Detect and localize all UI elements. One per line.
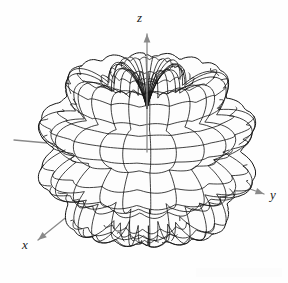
axis-label-x: x <box>22 238 28 251</box>
scan-artifact <box>196 268 282 277</box>
wireframe-surface-plot <box>0 0 288 283</box>
axis-label-y: y <box>270 188 276 201</box>
axis-arrowhead-z <box>144 34 151 43</box>
radiation-pattern-figure: z y x <box>0 0 288 283</box>
axis-arrowhead-y <box>255 188 264 194</box>
axis-label-z: z <box>137 11 142 24</box>
